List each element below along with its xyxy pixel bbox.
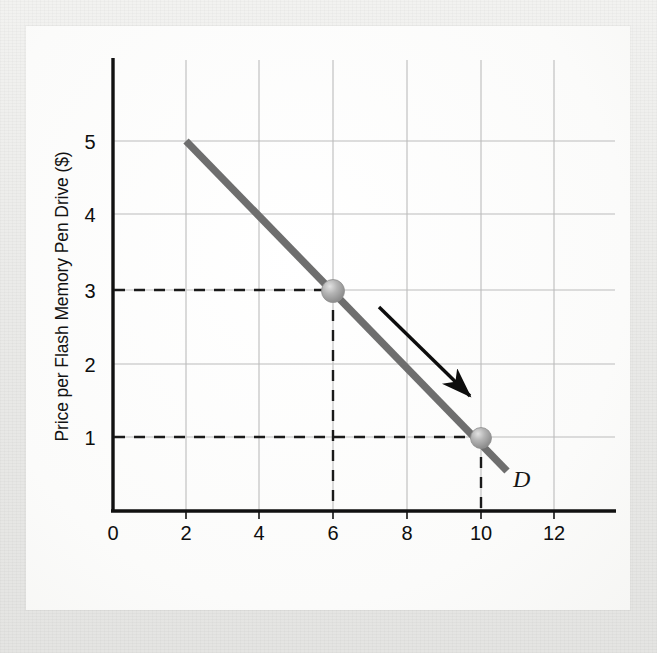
data-point-6-3 bbox=[322, 280, 345, 303]
y-tick-label-2: 2 bbox=[70, 354, 110, 377]
figure-page: Price per Flash Memory Pen Drive ($) 1 2… bbox=[0, 0, 657, 653]
x-tick-label-2: 2 bbox=[166, 522, 206, 545]
origin-label: 0 bbox=[93, 522, 133, 545]
data-point-10-1 bbox=[471, 428, 492, 449]
x-tick-label-4: 4 bbox=[239, 522, 279, 545]
y-tick-label-1: 1 bbox=[70, 427, 110, 450]
demand-curve-line bbox=[186, 141, 507, 471]
y-tick-label-3: 3 bbox=[70, 280, 110, 303]
x-tick-label-6: 6 bbox=[313, 522, 353, 545]
demand-curve-plot bbox=[0, 0, 657, 653]
x-tick-label-8: 8 bbox=[387, 522, 427, 545]
x-tick-label-10: 10 bbox=[461, 522, 501, 545]
x-tick-label-12: 12 bbox=[534, 522, 574, 545]
horizontal-gridlines bbox=[113, 141, 615, 437]
demand-curve-label: D bbox=[513, 466, 530, 493]
y-tick-label-5: 5 bbox=[70, 131, 110, 154]
guide-lines bbox=[114, 290, 481, 510]
y-tick-label-4: 4 bbox=[70, 204, 110, 227]
vertical-gridlines bbox=[186, 60, 554, 511]
